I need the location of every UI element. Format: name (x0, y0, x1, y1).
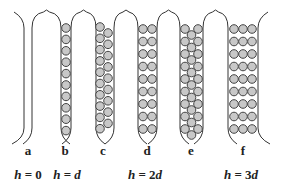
sphere (62, 24, 71, 33)
sphere (248, 87, 257, 96)
sphere (104, 63, 113, 72)
sphere (148, 25, 157, 34)
sphere (230, 125, 239, 134)
separation-label-h3d: h = 3d (224, 167, 258, 183)
sphere (96, 57, 105, 66)
sphere (148, 37, 157, 46)
sphere (239, 125, 248, 134)
sphere (248, 125, 257, 134)
sphere (230, 62, 239, 71)
sphere (230, 37, 239, 46)
sphere (96, 23, 105, 32)
sphere (148, 125, 157, 134)
sphere (148, 87, 157, 96)
sphere (148, 50, 157, 59)
sphere (96, 34, 105, 43)
sphere (96, 91, 105, 100)
sphere (104, 108, 113, 117)
panel-label-d: d (143, 143, 150, 159)
sphere (104, 29, 113, 38)
sphere (139, 75, 148, 84)
h-val: d (252, 167, 259, 182)
sphere (230, 75, 239, 84)
sphere (62, 35, 71, 44)
sphere (96, 124, 105, 133)
sphere (248, 100, 257, 109)
sphere (187, 93, 196, 102)
sphere (248, 37, 257, 46)
sphere (239, 50, 248, 59)
sphere (230, 100, 239, 109)
sphere (148, 112, 157, 121)
sphere (187, 68, 196, 77)
sphere (139, 100, 148, 109)
sphere (96, 113, 105, 122)
walls-and-spheres (0, 0, 281, 193)
right-outer-wall (258, 12, 270, 144)
sphere (239, 87, 248, 96)
panel-label-c: c (100, 143, 106, 159)
sphere (62, 126, 71, 135)
sphere-layers (62, 23, 257, 140)
sphere (239, 75, 248, 84)
panel-label-e: e (188, 143, 194, 159)
sphere (62, 115, 71, 124)
sphere (62, 69, 71, 78)
sphere (248, 25, 257, 34)
sphere (62, 92, 71, 101)
left-outer-wall (12, 12, 24, 144)
h-eq: = 0 (21, 167, 41, 182)
sphere (139, 87, 148, 96)
sphere (62, 58, 71, 67)
sphere (230, 25, 239, 34)
sphere (187, 118, 196, 127)
separation-label-hd: h = d (53, 167, 81, 183)
sphere (139, 112, 148, 121)
h-eq: = 2 (135, 167, 155, 182)
h-val: d (74, 167, 81, 182)
sphere (230, 50, 239, 59)
sphere (187, 131, 196, 140)
sphere (148, 62, 157, 71)
sphere (148, 75, 157, 84)
sphere (62, 81, 71, 90)
sphere (187, 43, 196, 52)
sphere (187, 56, 196, 65)
sphere (187, 31, 196, 40)
sphere (248, 50, 257, 59)
sphere (104, 97, 113, 106)
sphere (104, 40, 113, 49)
h-eq: = (60, 167, 74, 182)
sphere (104, 119, 113, 128)
sphere (248, 75, 257, 84)
sphere (139, 62, 148, 71)
sphere (248, 112, 257, 121)
sphere (187, 106, 196, 115)
sphere (104, 51, 113, 60)
sphere (62, 47, 71, 56)
panel-label-b: b (61, 143, 68, 159)
panel-label-f: f (241, 143, 245, 159)
sphere (230, 87, 239, 96)
sphere (239, 37, 248, 46)
sphere (148, 100, 157, 109)
sphere (139, 50, 148, 59)
sphere (96, 45, 105, 54)
sphere (139, 25, 148, 34)
sphere (230, 112, 239, 121)
sphere (104, 85, 113, 94)
h-val: d (156, 167, 163, 182)
sphere (239, 25, 248, 34)
sphere (248, 62, 257, 71)
h-eq: = 3 (231, 167, 251, 182)
separation-label-h2d: h = 2d (128, 167, 162, 183)
sphere (96, 102, 105, 111)
sphere (96, 68, 105, 77)
sphere (239, 112, 248, 121)
sphere (104, 74, 113, 83)
sphere (239, 62, 248, 71)
sphere (239, 100, 248, 109)
sphere (139, 125, 148, 134)
sphere (139, 37, 148, 46)
separation-label-h0: h = 0 (14, 167, 42, 183)
